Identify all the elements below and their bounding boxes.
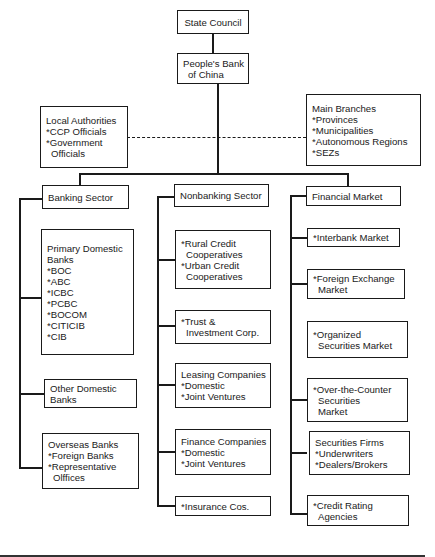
node-label: *CIB [47, 331, 128, 342]
node-label: *CCP Officials [46, 126, 122, 137]
node-label: Market [313, 406, 402, 417]
financial-bus [290, 195, 292, 514]
banking-bus [19, 198, 21, 468]
nonbanking-tick-3 [157, 384, 175, 386]
node-label: Banking Sector [48, 192, 123, 203]
node-primary-domestic-banks: Primary Domestic Banks *BOC *ABC *ICBC *… [41, 229, 134, 355]
node-label: *Over-the-Counter [313, 384, 402, 395]
node-other-domestic-banks: Other Domestic Banks [44, 379, 137, 408]
node-label: *Autonomous Regions [312, 136, 415, 147]
node-label: Securities Firms [315, 437, 404, 448]
node-label: Cooperatives [181, 271, 265, 282]
dashed-link-local-main [127, 137, 306, 138]
node-label: Banks [47, 254, 128, 265]
banking-tick-overseas [19, 467, 42, 469]
node-label: *Representative [48, 461, 133, 472]
node-label: *Government [46, 137, 122, 148]
node-label: *Underwriters [315, 448, 404, 459]
node-label: *ICBC [47, 287, 128, 298]
node-label: Main Branches [312, 103, 415, 114]
node-label: Cooperatives [181, 249, 265, 260]
node-interbank-market: *Interbank Market [307, 228, 400, 247]
node-label: Olffices [48, 472, 133, 483]
node-label: *Interbank Market [313, 232, 394, 243]
node-label: Banks [50, 394, 131, 405]
node-securities-firms: Securities Firms *Underwriters *Dealers/… [309, 431, 410, 475]
banking-bus-top [19, 198, 42, 200]
node-label: *Foreign Banks [48, 450, 133, 461]
node-leasing-companies: Leasing Companies *Domestic *Joint Ventu… [175, 363, 271, 408]
node-label: *Municipalities [312, 125, 415, 136]
node-label: *Rural Credit [181, 238, 265, 249]
node-financial-market: Financial Market [306, 186, 401, 206]
node-label: Finance Companies [181, 436, 265, 447]
nonbanking-tick-4 [157, 451, 175, 453]
node-label: Market [313, 284, 399, 295]
node-label: Financial Market [312, 191, 395, 202]
node-label: *ABC [47, 276, 128, 287]
node-label: *Organized [313, 329, 402, 340]
node-label: *Foreign Exchange [313, 273, 399, 284]
node-overseas-banks: Overseas Banks *Foreign Banks *Represent… [42, 433, 139, 489]
node-label: Primary Domestic [47, 243, 128, 254]
node-label: *PCBC [47, 298, 128, 309]
node-label: *Insurance Cos. [181, 501, 265, 512]
financial-tick-5 [290, 452, 307, 454]
banking-tick-primary [19, 297, 41, 299]
node-peoples-bank-of-china: People's Bank of China [177, 53, 249, 84]
node-label: Securities [313, 395, 402, 406]
node-credit-rating-agencies: *Credit Rating Agencies [307, 495, 409, 526]
node-credit-cooperatives: *Rural Credit Cooperatives *Urban Credit… [175, 230, 271, 289]
financial-tick-4 [290, 399, 307, 401]
node-label: *BOCOM [47, 309, 128, 320]
node-label: Securities Market [313, 340, 402, 351]
node-main-branches: Main Branches *Provinces *Municipalities… [306, 94, 421, 166]
node-label: *Provinces [312, 114, 415, 125]
node-label: *CITICIB [47, 320, 128, 331]
node-otc-securities-market: *Over-the-Counter Securities Market [307, 378, 408, 422]
connector-state-council-pboc [212, 33, 214, 53]
connector-to-financial [347, 173, 349, 186]
node-label: *Urban Credit [181, 260, 265, 271]
connector-to-banking [79, 173, 81, 185]
node-label: *Trust & [181, 316, 265, 327]
node-foreign-exchange-market: *Foreign Exchange Market [307, 269, 405, 299]
nonbanking-bus [157, 196, 159, 506]
node-finance-companies: Finance Companies *Domestic *Joint Ventu… [175, 429, 271, 475]
node-insurance-cos: *Insurance Cos. [175, 496, 271, 516]
node-label: Officials [46, 148, 122, 159]
node-label: *Dealers/Brokers [315, 459, 404, 470]
node-label: Investment Corp. [181, 327, 265, 338]
node-label: *Domestic [181, 380, 265, 391]
node-label: *Joint Ventures [181, 458, 265, 469]
node-organized-securities-market: *Organized Securities Market [307, 321, 408, 358]
node-label: of China [183, 69, 243, 80]
financial-tick-6 [290, 513, 307, 515]
connector-sector-bar [79, 173, 348, 175]
node-label: People's Bank [183, 58, 243, 69]
node-state-council: State Council [177, 10, 249, 34]
connector-pboc-trunk [217, 83, 219, 174]
node-label: *BOC [47, 265, 128, 276]
financial-tick-1 [290, 237, 307, 239]
node-trust-investment: *Trust & Investment Corp. [175, 310, 271, 344]
node-label: Agencies [313, 511, 403, 522]
nonbanking-tick-1 [157, 259, 175, 261]
node-local-authorities: Local Authorities *CCP Officials *Govern… [40, 106, 128, 168]
node-label: *Joint Ventures [181, 391, 265, 402]
node-label: Local Authorities [46, 115, 122, 126]
node-banking-sector: Banking Sector [42, 185, 129, 209]
node-label: *Domestic [181, 447, 265, 458]
financial-bus-top [290, 195, 307, 197]
node-label: State Council [184, 17, 241, 28]
node-label: Leasing Companies [181, 369, 265, 380]
node-label: Overseas Banks [48, 439, 133, 450]
node-label: *Credit Rating [313, 500, 403, 511]
nonbanking-tick-5 [157, 505, 175, 507]
nonbanking-bus-top [157, 196, 175, 198]
financial-tick-2 [290, 283, 307, 285]
bottom-divider [0, 555, 425, 557]
nonbanking-tick-2 [157, 325, 175, 327]
node-label: Other Domestic [50, 383, 131, 394]
node-label: Nonbanking Sector [180, 190, 263, 201]
